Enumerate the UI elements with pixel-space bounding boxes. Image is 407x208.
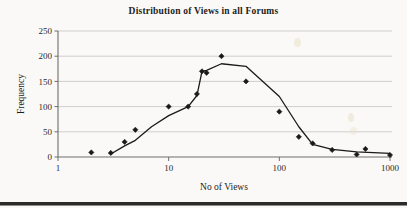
- x-tick-label-100: 100: [273, 163, 287, 173]
- x-tick-label-10: 10: [164, 163, 174, 173]
- data-point-marker: [108, 150, 113, 155]
- data-point-marker: [89, 150, 94, 155]
- data-point-marker: [122, 139, 127, 144]
- data-point-marker: [166, 104, 171, 109]
- y-tick-label-0: 0: [48, 152, 53, 162]
- data-point-marker: [363, 146, 368, 151]
- data-point-marker: [330, 147, 335, 152]
- x-tick-label-1000: 1000: [381, 163, 400, 173]
- y-tick-label-200: 200: [39, 51, 53, 61]
- footer-divider: [0, 202, 407, 205]
- y-axis-title: Frequency: [16, 74, 26, 114]
- y-tick-label-150: 150: [39, 77, 53, 87]
- chart-figure: Distribution of Views in all Forums 0501…: [0, 0, 407, 208]
- y-tick-label-100: 100: [39, 102, 53, 112]
- trend-line: [111, 64, 390, 154]
- data-point-marker: [243, 79, 248, 84]
- data-point-marker: [277, 109, 282, 114]
- x-axis-title: No of Views: [200, 182, 248, 192]
- y-tick-label-250: 250: [39, 26, 53, 36]
- data-point-marker: [219, 54, 224, 59]
- data-point-marker: [296, 134, 301, 139]
- data-point-marker: [194, 91, 199, 96]
- y-tick-label-50: 50: [43, 127, 53, 137]
- data-point-marker: [199, 69, 204, 74]
- plot-area: 0501001502002501101001000No of ViewsFreq…: [0, 0, 407, 208]
- x-tick-label-1: 1: [56, 163, 61, 173]
